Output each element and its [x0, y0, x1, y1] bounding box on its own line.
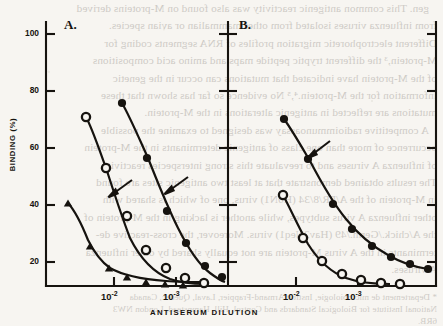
x-tick-base: 10 — [163, 291, 173, 302]
y-tick-label: 100 — [13, 28, 39, 38]
x-tick-base: 10 — [101, 291, 111, 302]
figure-plot — [0, 0, 443, 326]
y-tick-label: 40 — [13, 199, 39, 209]
y-tick-label: 60 — [13, 142, 39, 152]
panel-a-arrow-filled-circle — [164, 177, 188, 194]
x-tick-exponent: -3 — [355, 290, 361, 297]
panel-a-series-triangles — [64, 199, 200, 288]
x-tick-label: 10-3 — [163, 290, 180, 302]
figure-page: gen. This common antigenic reactivity wa… — [0, 0, 443, 326]
x-tick-exponent: -2 — [111, 290, 117, 297]
y-tick-label: 80 — [13, 85, 39, 95]
x-tick-exponent: -2 — [293, 290, 299, 297]
x-tick-label: 10-2 — [101, 290, 118, 302]
panel-b-series-open-circles — [279, 191, 404, 288]
x-axis-title: ANTISERUM DILUTION — [150, 308, 259, 317]
x-tick-base: 10 — [345, 291, 355, 302]
y-tick-label: 20 — [13, 256, 39, 266]
x-tick-label: 10-3 — [345, 290, 362, 302]
panel-label-b: B. — [239, 17, 251, 33]
panel-label-a: A. — [64, 17, 77, 33]
x-tick-base: 10 — [283, 291, 293, 302]
y-tick-marks — [46, 34, 436, 262]
x-tick-label: 10-2 — [283, 290, 300, 302]
x-tick-exponent: -3 — [173, 290, 179, 297]
panel-b-arrow-filled-circle — [307, 141, 330, 158]
panel-b-series-filled-circles — [280, 115, 432, 273]
